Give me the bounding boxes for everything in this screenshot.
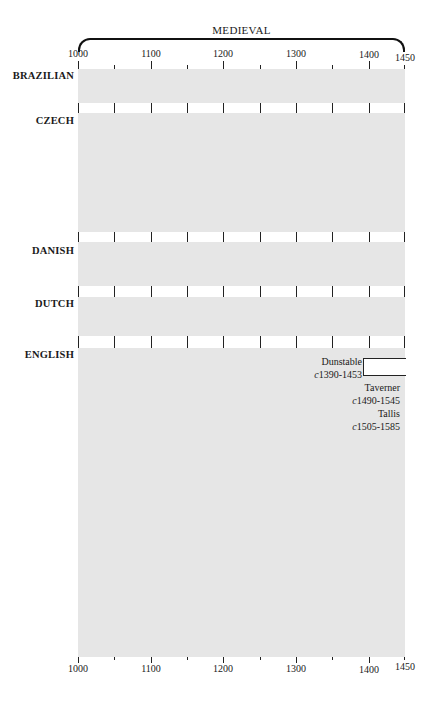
composer-name: Taverner [352,381,400,394]
top-axis-label-1400: 1400 [359,49,379,60]
bottom-axis-label-1400: 1400 [359,664,379,675]
top-axis-label-1100: 1100 [141,48,161,59]
bottom-axis-label-1300: 1300 [286,663,306,674]
top-axis-label-1300: 1300 [286,48,306,59]
composer-name: Dunstable [314,355,362,368]
row-label-dutch: DUTCH [0,298,74,309]
bottom-axis-label-1000: 1000 [68,663,88,674]
composer-tallis: Tallis c1505-1585 [352,407,400,433]
bottom-axis-label-1200: 1200 [213,663,233,674]
top-axis-label-1450: 1450 [395,52,415,63]
band-czech [78,113,405,232]
composer-dates: c1505-1585 [352,420,400,433]
era-label: MEDIEVAL [78,24,405,36]
row-label-czech: CZECH [0,115,74,126]
bottom-axis-label-1450: 1450 [395,661,415,672]
top-axis-label-1000: 1000 [68,48,88,59]
band-dutch [78,297,405,336]
top-axis-label-1200: 1200 [213,48,233,59]
composer-dates: c1390-1453 [314,368,362,381]
composer-taverner: Taverner c1490-1545 [352,381,400,407]
composer-name: Tallis [352,407,400,420]
row-label-brazilian: BRAZILIAN [0,70,74,81]
composer-dates: c1490-1545 [352,394,400,407]
era-bracket [78,38,405,52]
row-label-danish: DANISH [0,245,74,256]
row-label-english: ENGLISH [0,349,74,360]
bottom-axis-label-1100: 1100 [141,663,161,674]
dunstable-lifespan-bar [363,358,406,376]
composer-dunstable: Dunstable c1390-1453 [314,355,362,381]
band-brazilian [78,69,405,103]
band-danish [78,242,405,286]
